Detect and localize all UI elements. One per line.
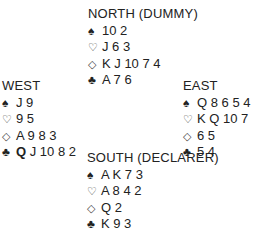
hearts-cards: A 8 4 2: [101, 183, 141, 198]
hand-title: NORTH (DUMMY): [88, 6, 198, 23]
diamonds-cards: Q 2: [101, 200, 122, 215]
spades-row: ♠J 9: [2, 95, 76, 112]
spades-row: ♠10 2: [88, 23, 198, 40]
hand-title: EAST: [183, 78, 250, 95]
heart-icon: ♡: [183, 111, 197, 128]
diamonds-row: ◇A 9 8 3: [2, 128, 76, 145]
hearts-cards: J 6 3: [102, 39, 130, 54]
hearts-cards: 9 5: [16, 111, 34, 126]
spades-cards: Q 8 6 5 4: [197, 95, 250, 110]
diamonds-cards: 6 5: [197, 128, 215, 143]
north-hand: NORTH (DUMMY) ♠10 2 ♡J 6 3 ◇K J 10 7 4 ♣…: [88, 6, 198, 89]
spade-icon: ♠: [87, 167, 101, 184]
spade-icon: ♠: [88, 23, 102, 40]
heart-icon: ♡: [88, 39, 102, 56]
diamonds-row: ◇Q 2: [87, 200, 219, 217]
hand-title: WEST: [2, 78, 76, 95]
highlighted-card: Q: [16, 144, 26, 159]
spades-cards: J 9: [16, 95, 33, 110]
heart-icon: ♡: [87, 183, 101, 200]
clubs-row: ♣K 9 3: [87, 216, 219, 232]
diamond-icon: ◇: [88, 56, 102, 73]
hand-title: SOUTH (DECLARER): [87, 150, 219, 167]
diamonds-row: ◇K J 10 7 4: [88, 56, 198, 73]
spade-icon: ♠: [2, 95, 16, 112]
clubs-cards: J 10 8 2: [30, 144, 76, 159]
diamonds-cards: A 9 8 3: [16, 128, 56, 143]
club-icon: ♣: [2, 144, 16, 161]
clubs-cards: K 9 3: [101, 216, 131, 231]
clubs-row: ♣Q J 10 8 2: [2, 144, 76, 161]
east-hand: EAST ♠Q 8 6 5 4 ♡K Q 10 7 ◇6 5 ♣5 4: [183, 78, 250, 161]
clubs-row: ♣A 7 6: [88, 72, 198, 89]
spades-row: ♠Q 8 6 5 4: [183, 95, 250, 112]
west-hand: WEST ♠J 9 ♡9 5 ◇A 9 8 3 ♣Q J 10 8 2: [2, 78, 76, 161]
club-icon: ♣: [88, 72, 102, 89]
south-hand: SOUTH (DECLARER) ♠A K 7 3 ♡A 8 4 2 ◇Q 2 …: [87, 150, 219, 232]
diamonds-cards: K J 10 7 4: [102, 56, 161, 71]
spades-cards: A K 7 3: [101, 167, 143, 182]
diamonds-row: ◇6 5: [183, 128, 250, 145]
hearts-row: ♡J 6 3: [88, 39, 198, 56]
clubs-cards: A 7 6: [102, 72, 132, 87]
diamond-icon: ◇: [2, 128, 16, 145]
hearts-row: ♡A 8 4 2: [87, 183, 219, 200]
diamond-icon: ◇: [87, 200, 101, 217]
hearts-row: ♡9 5: [2, 111, 76, 128]
hearts-cards: K Q 10 7: [197, 111, 248, 126]
heart-icon: ♡: [2, 111, 16, 128]
club-icon: ♣: [87, 216, 101, 232]
spades-cards: 10 2: [102, 23, 127, 38]
spades-row: ♠A K 7 3: [87, 167, 219, 184]
spade-icon: ♠: [183, 95, 197, 112]
diamond-icon: ◇: [183, 128, 197, 145]
hearts-row: ♡K Q 10 7: [183, 111, 250, 128]
